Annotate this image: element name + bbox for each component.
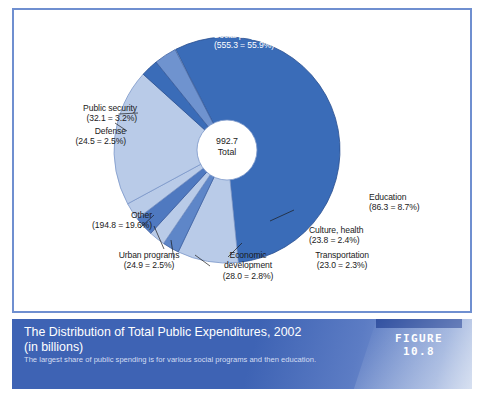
- slice-label-economic-development-name1: Economic: [202, 250, 294, 260]
- slice-label-transportation-name: Transportation: [292, 250, 392, 260]
- figure-root: Social programs (555.3 = 55.9%) 992.7 To…: [0, 0, 486, 396]
- slice-label-transportation: Transportation (23.0 = 2.3%): [292, 250, 392, 271]
- figure-title-line1: The Distribution of Total Public Expendi…: [24, 325, 301, 340]
- slice-label-transportation-value: (23.0 = 2.3%): [292, 260, 392, 270]
- slice-label-urban-programs: Urban programs (24.9 = 2.5%): [94, 250, 204, 271]
- figure-number-block: FIGURE 10.8: [376, 319, 462, 358]
- chart-frame: Social programs (555.3 = 55.9%) 992.7 To…: [12, 8, 472, 313]
- slice-label-culture-health: Culture, health (23.8 = 2.4%): [309, 225, 429, 246]
- slice-label-other-name: Other: [34, 210, 152, 220]
- slice-label-public-security-value: (32.1 = 3.2%): [19, 113, 137, 123]
- figure-number-bar: [376, 319, 462, 328]
- slice-label-economic-development-value: (28.0 = 2.8%): [202, 271, 294, 281]
- slice-label-urban-programs-value: (24.9 = 2.5%): [94, 260, 204, 270]
- slice-label-defense: Defense (24.5 = 2.5%): [19, 126, 126, 147]
- figure-number-label: FIGURE 10.8: [376, 332, 462, 358]
- slice-label-education-name: Education: [369, 192, 479, 202]
- figure-caption-bar: The Distribution of Total Public Expendi…: [12, 319, 472, 389]
- figure-title: The Distribution of Total Public Expendi…: [24, 325, 301, 354]
- slice-label-defense-name: Defense: [19, 126, 126, 136]
- slice-label-economic-development-name2: development: [202, 260, 294, 270]
- center-total: 992.7 Total: [197, 136, 257, 157]
- slice-label-culture-health-name: Culture, health: [309, 225, 429, 235]
- center-total-value: 992.7: [197, 136, 257, 147]
- slice-label-defense-value: (24.5 = 2.5%): [19, 136, 126, 146]
- slice-label-urban-programs-name: Urban programs: [94, 250, 204, 260]
- slice-label-culture-health-value: (23.8 = 2.4%): [309, 235, 429, 245]
- slice-label-social-programs-name: Social programs: [184, 30, 304, 40]
- figure-title-line2: (in billions): [24, 340, 301, 355]
- center-total-label: Total: [197, 147, 257, 158]
- slice-label-economic-development: Economic development (28.0 = 2.8%): [202, 250, 294, 281]
- slice-label-social-programs-value: (555.3 = 55.9%): [184, 40, 304, 50]
- pie-chart: Social programs (555.3 = 55.9%) 992.7 To…: [14, 10, 470, 311]
- slice-label-education-value: (86.3 = 8.7%): [369, 202, 479, 212]
- figure-subtitle: The largest share of public spending is …: [24, 355, 324, 365]
- slice-label-other-value: (194.8 = 19.6%): [34, 220, 152, 230]
- slice-label-public-security: Public security (32.1 = 3.2%): [19, 103, 137, 124]
- slice-label-education: Education (86.3 = 8.7%): [369, 192, 479, 213]
- slice-label-other: Other (194.8 = 19.6%): [34, 210, 152, 231]
- slice-label-public-security-name: Public security: [19, 103, 137, 113]
- slice-label-social-programs: Social programs (555.3 = 55.9%): [184, 30, 304, 51]
